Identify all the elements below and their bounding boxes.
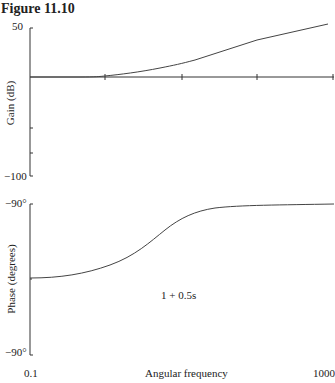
- gain-y-axis: [30, 28, 33, 176]
- bode-plot-graphics: [0, 0, 335, 383]
- phase-curve: [30, 204, 334, 278]
- gain-curve: [30, 24, 328, 77]
